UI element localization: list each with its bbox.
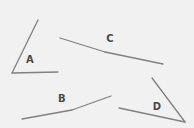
angle-figure-canvas: ACBD: [0, 0, 194, 128]
angle-label-d: D: [153, 102, 162, 112]
angle-c-ray2: [105, 52, 163, 64]
angle-a-ray1: [12, 20, 38, 73]
angle-d: [119, 78, 185, 122]
angle-a: [12, 20, 58, 73]
angle-b: [22, 96, 111, 119]
angle-a-ray2: [12, 72, 58, 73]
angle-label-c: C: [106, 34, 114, 44]
angle-b-ray1: [22, 110, 72, 119]
angle-c-ray1: [60, 38, 105, 52]
angle-label-b: B: [58, 94, 66, 104]
angle-b-ray2: [72, 96, 111, 110]
angle-label-a: A: [26, 55, 34, 65]
